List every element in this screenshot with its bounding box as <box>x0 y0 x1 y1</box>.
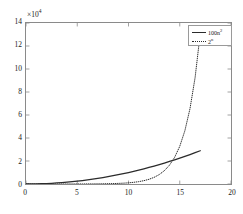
x-tick-label: 15 <box>177 189 185 197</box>
y-tick-label: 2 <box>18 158 22 166</box>
plot-area <box>25 22 232 185</box>
legend-label-1: 2n <box>208 38 213 45</box>
x-tick-label: 0 <box>23 189 27 197</box>
figure: ×104 02468101214 05101520 100n2 2n <box>0 0 243 214</box>
y-axis-multiplier-exponent: 4 <box>39 8 42 14</box>
series-curve-1 <box>26 33 200 184</box>
legend[interactable]: 100n2 2n <box>188 25 232 46</box>
y-tick-label: 6 <box>18 111 22 119</box>
x-tick-label: 20 <box>228 189 236 197</box>
legend-swatch-solid <box>191 29 206 35</box>
x-axis-tick-labels: 05101520 <box>0 189 243 203</box>
legend-item-0[interactable]: 100n2 <box>191 28 229 36</box>
y-tick-label: 12 <box>15 41 23 49</box>
y-tick-label: 14 <box>15 18 23 26</box>
y-tick-label: 8 <box>18 88 22 96</box>
y-axis-multiplier-base: ×10 <box>27 10 39 19</box>
legend-swatch-dotted <box>191 38 206 44</box>
y-tick-label: 0 <box>18 181 22 189</box>
x-tick-label: 5 <box>75 189 79 197</box>
y-tick-label: 4 <box>18 134 22 142</box>
y-axis-tick-labels: 02468101214 <box>0 0 22 214</box>
legend-label-0: 100n2 <box>208 29 222 36</box>
legend-item-1[interactable]: 2n <box>191 37 229 45</box>
series-curve-0 <box>26 151 200 184</box>
x-tick-label: 10 <box>125 189 133 197</box>
plot-curves <box>26 23 231 184</box>
y-axis-multiplier: ×104 <box>27 9 41 18</box>
y-tick-label: 10 <box>15 65 23 73</box>
